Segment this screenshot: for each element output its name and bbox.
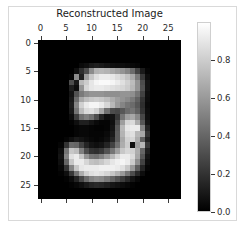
y-tick-label: 25	[20, 180, 31, 189]
colorbar-tick-label: 0.0	[217, 208, 231, 217]
x-tick-label: 10	[86, 24, 97, 33]
x-tick-label: 15	[112, 24, 123, 33]
x-tick-mark	[92, 199, 93, 203]
colorbar	[197, 22, 211, 212]
x-tick-mark	[41, 36, 42, 40]
colorbar-tick-mark	[211, 136, 215, 137]
y-tick-label: 20	[20, 152, 31, 161]
x-tick-label: 5	[63, 24, 68, 33]
x-tick-label: 20	[137, 24, 148, 33]
x-tick-mark	[117, 199, 118, 203]
colorbar-tick-label: 0.4	[217, 132, 231, 141]
y-tick-mark	[34, 128, 38, 129]
colorbar-tick-mark	[211, 174, 215, 175]
colorbar-tick-label: 0.8	[217, 56, 231, 65]
colorbar-tick-label: 0.2	[217, 170, 231, 179]
y-tick-mark	[34, 43, 38, 44]
x-tick-mark	[117, 36, 118, 40]
y-tick-mark	[34, 156, 38, 157]
image-axes	[38, 40, 181, 199]
colorbar-gradient	[198, 23, 210, 211]
x-tick-mark	[41, 199, 42, 203]
colorbar-tick-label: 0.6	[217, 94, 231, 103]
x-tick-mark	[66, 199, 67, 203]
x-tick-mark	[168, 199, 169, 203]
colorbar-tick-mark	[211, 98, 215, 99]
x-tick-mark	[143, 36, 144, 40]
colorbar-tick-mark	[211, 212, 215, 213]
y-tick-label: 10	[20, 95, 31, 104]
y-tick-mark	[34, 100, 38, 101]
x-tick-mark	[143, 199, 144, 203]
reconstructed-digit-image	[38, 40, 181, 199]
colorbar-tick-mark	[211, 60, 215, 61]
y-tick-mark	[34, 71, 38, 72]
x-tick-label: 0	[38, 24, 43, 33]
y-tick-label: 5	[26, 67, 31, 76]
matplotlib-figure: Reconstructed Image 05101520250510152025…	[0, 0, 245, 241]
x-tick-label: 25	[163, 24, 174, 33]
y-tick-label: 0	[26, 38, 31, 47]
x-tick-mark	[66, 36, 67, 40]
x-tick-mark	[92, 36, 93, 40]
y-tick-label: 15	[20, 124, 31, 133]
page-title: Reconstructed Image	[38, 8, 181, 20]
x-tick-mark	[168, 36, 169, 40]
y-tick-mark	[34, 185, 38, 186]
